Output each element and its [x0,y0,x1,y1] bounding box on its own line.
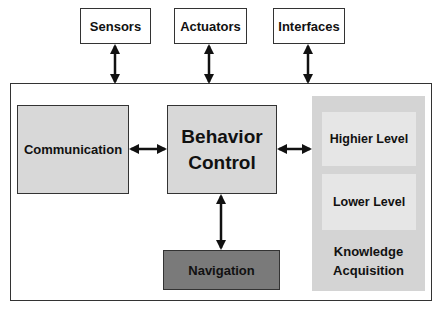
connection-arrows [0,0,439,309]
